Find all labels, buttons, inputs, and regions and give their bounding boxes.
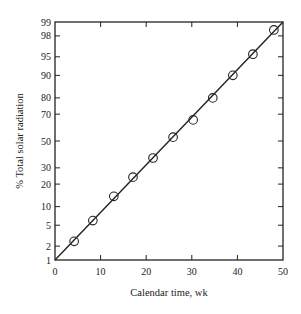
y-axis-ticks: 12510203050708090959899: [41, 17, 283, 266]
y-tick-label: 98: [41, 30, 51, 41]
y-tick-label: 70: [41, 109, 51, 120]
y-tick-label: 95: [41, 51, 51, 62]
y-tick-label: 30: [41, 162, 51, 173]
data-point-marker: [70, 237, 79, 246]
x-axis-title: Calendar time, wk: [130, 287, 208, 298]
y-tick-label: 5: [46, 220, 51, 231]
data-point-marker: [129, 173, 138, 182]
data-series: [55, 22, 283, 260]
data-point-marker: [270, 26, 279, 35]
x-tick-label: 30: [187, 266, 197, 277]
y-tick-label: 2: [46, 241, 51, 252]
y-tick-label: 10: [41, 201, 51, 212]
y-tick-label: 99: [41, 17, 51, 28]
x-axis-ticks: 01020304050: [53, 22, 289, 277]
x-tick-label: 50: [278, 266, 288, 277]
y-tick-label: 20: [41, 179, 51, 190]
y-tick-label: 50: [41, 136, 51, 147]
y-tick-label: 80: [41, 92, 51, 103]
probability-plot: 12510203050708090959899 01020304050 Cale…: [0, 0, 301, 314]
y-tick-label: 1: [46, 255, 51, 266]
fit-line: [55, 22, 283, 260]
x-tick-label: 20: [141, 266, 151, 277]
y-axis-title: % Total solar radiation: [14, 92, 25, 188]
x-tick-label: 0: [53, 266, 58, 277]
x-tick-label: 40: [232, 266, 242, 277]
y-tick-label: 90: [41, 70, 51, 81]
x-tick-label: 10: [96, 266, 106, 277]
